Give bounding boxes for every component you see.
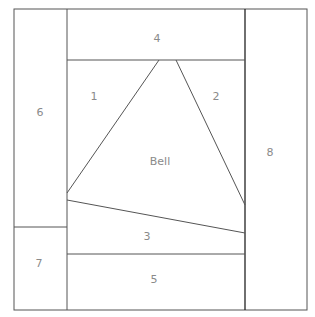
piece-6-label: 6 xyxy=(37,106,44,119)
bell-left-edge xyxy=(67,60,159,193)
piece-3-top-line xyxy=(67,200,245,233)
piece-7-label: 7 xyxy=(36,257,43,270)
pattern-diagram: 4 1 2 Bell 6 8 3 7 5 xyxy=(0,0,315,317)
piece-1-label: 1 xyxy=(91,90,98,103)
piece-8-label: 8 xyxy=(267,146,274,159)
piece-4-label: 4 xyxy=(154,32,161,45)
piece-3-label: 3 xyxy=(144,230,151,243)
piece-5-label: 5 xyxy=(151,273,158,286)
piece-2-label: 2 xyxy=(213,90,220,103)
piece-bell-label: Bell xyxy=(150,155,170,168)
bell-right-edge xyxy=(176,60,245,205)
